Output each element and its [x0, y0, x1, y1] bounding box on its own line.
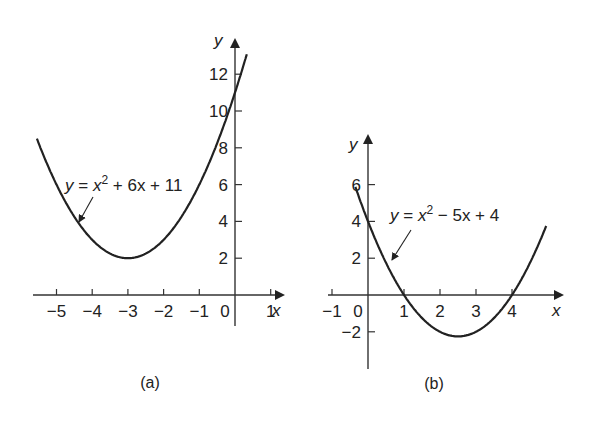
x-tick-label: −1	[322, 302, 341, 321]
x-tick-label: 3	[471, 302, 480, 321]
y-tick-label: 4	[219, 212, 228, 231]
y-tick-label: 6	[219, 176, 228, 195]
figure: −5−4−3−2−101 24681012 x y y = x2 + 6x + …	[0, 0, 592, 424]
x-tick-label: −4	[83, 302, 102, 321]
y-tick-label: 2	[219, 249, 228, 268]
y-tick-label: 10	[209, 102, 228, 121]
caption-a: (a)	[140, 374, 160, 391]
y-tick-label: 4	[352, 212, 361, 231]
equation-label: y = x2 + 6x + 11	[64, 173, 182, 195]
pointer-arrow	[392, 230, 411, 260]
caption-b: (b)	[424, 375, 444, 392]
x-tick-label: 0	[353, 302, 362, 321]
x-tick-label: −3	[118, 302, 137, 321]
parabola-curve	[37, 54, 247, 258]
chart-b: −101234 −2246 x y y = x2 − 5x + 4 (b)	[322, 135, 562, 392]
y-tick-label: 12	[209, 65, 228, 84]
pointer-arrow	[79, 197, 93, 222]
y-axis-label: y	[348, 135, 359, 154]
y-tick-label: −2	[342, 323, 361, 342]
y-tick-label: 8	[219, 139, 228, 158]
equation-label: y = x2 − 5x + 4	[389, 203, 499, 225]
chart-a: −5−4−3−2−101 24681012 x y y = x2 + 6x + …	[33, 31, 283, 391]
x-tick-label: 1	[399, 302, 408, 321]
x-tick-label: 0	[220, 302, 229, 321]
x-axis-label: x	[271, 301, 281, 320]
y-tick-label: 2	[352, 249, 361, 268]
x-tick-label: −2	[154, 302, 173, 321]
x-tick-label: −1	[190, 302, 209, 321]
x-ticks: −5−4−3−2−101	[47, 289, 276, 321]
x-axis-label: x	[551, 301, 561, 320]
x-tick-label: 2	[435, 302, 444, 321]
y-ticks: 24681012	[209, 65, 242, 268]
y-axis-label: y	[213, 31, 224, 50]
x-tick-label: −5	[47, 302, 66, 321]
x-tick-label: 4	[507, 302, 516, 321]
